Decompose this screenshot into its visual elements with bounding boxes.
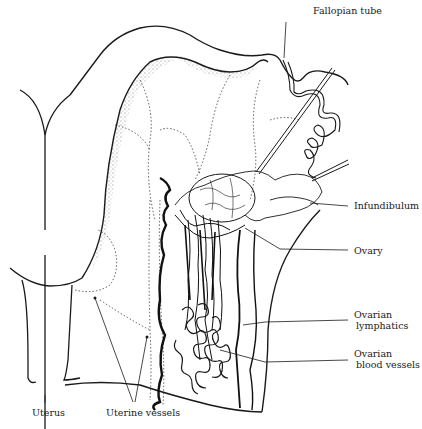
label-fallopian-tube: Fallopian tube xyxy=(313,5,382,16)
lymphatic-boundaries xyxy=(153,178,256,410)
label-uterine-vessels: Uterine vessels xyxy=(106,407,180,418)
ovarian-lymphatics xyxy=(175,210,245,360)
label-uterus: Uterus xyxy=(32,407,65,418)
leader-dot xyxy=(146,336,149,339)
label-ovary: Ovary xyxy=(354,245,383,256)
label-ovarian-blood-vessels-line1: Ovarian xyxy=(354,348,392,359)
leader-dot xyxy=(94,297,97,300)
ovary xyxy=(189,174,255,222)
probes xyxy=(256,68,349,181)
stipple-shading-2 xyxy=(180,55,262,78)
label-infundibulum: Infundibulum xyxy=(354,200,419,211)
label-ovarian-lymphatics-line2: lymphatics xyxy=(356,320,408,331)
dotted-lines xyxy=(75,75,300,405)
label-ovarian-lymphatics-line1: Ovarian xyxy=(354,309,392,320)
uterus-outline xyxy=(10,90,82,429)
label-ovarian-blood-vessels-line2: blood vessels xyxy=(356,359,420,370)
